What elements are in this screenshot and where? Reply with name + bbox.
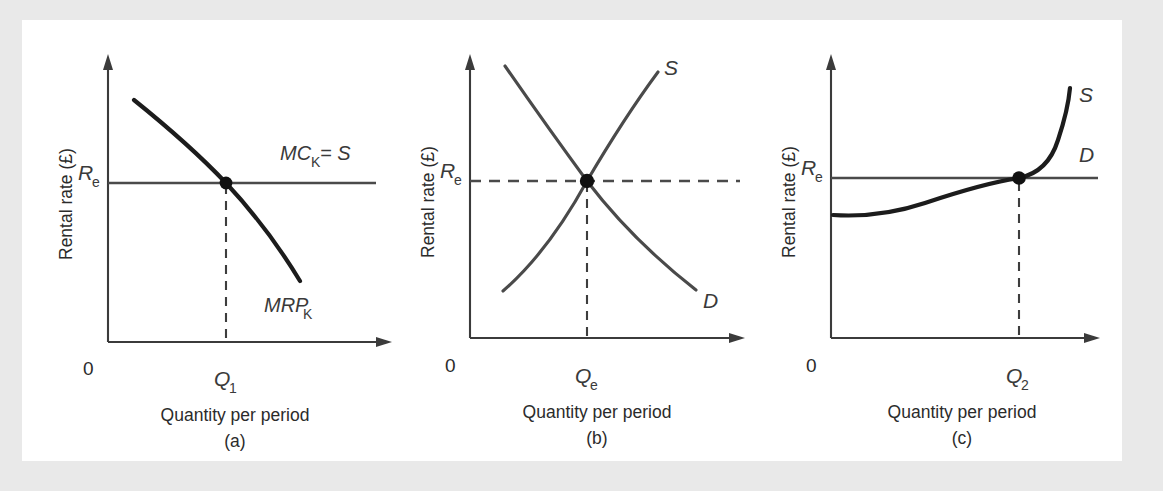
- panel-c-y-axis-label: Rental rate (£): [779, 146, 799, 258]
- panel-a-mrpk-label: MRP K: [264, 294, 313, 322]
- panel-b-y-axis-arrowhead: [465, 54, 475, 70]
- panel-a-y-axis-arrowhead: [103, 54, 113, 70]
- panel-b-demand-curve: [505, 66, 696, 290]
- panel-b-caption: (b): [586, 428, 607, 448]
- panel-a-price-symbol: R: [78, 161, 93, 184]
- panel-a-x-axis-label: Quantity per period: [161, 405, 310, 425]
- panel-a-mrpk-subscript: K: [303, 306, 313, 322]
- panel-a-x-axis-arrowhead: [376, 337, 392, 347]
- panel-c-price-symbol: R: [801, 156, 816, 179]
- panel-a-origin-label: 0: [83, 358, 94, 379]
- panel-b-equilibrium-point: [580, 174, 594, 188]
- panel-b-y-axis-label: Rental rate (£): [418, 146, 438, 258]
- panel-c: Rental rate (£) R e S D 0 Q 2 Quantity p…: [779, 54, 1100, 448]
- panel-a-equilibrium-point: [220, 177, 233, 190]
- figure-root: Rental rate (£) R e MC K = S MRP K 0 Q: [0, 0, 1163, 491]
- panel-a: Rental rate (£) R e MC K = S MRP K 0 Q: [56, 54, 392, 451]
- panel-a-mck-suffix: = S: [320, 142, 351, 164]
- panel-b-origin-label: 0: [445, 355, 456, 376]
- panel-c-origin-label: 0: [806, 355, 817, 376]
- panel-b: Rental rate (£) R e S D 0 Q e Quantity p…: [418, 54, 745, 448]
- panel-c-y-axis-arrowhead: [826, 54, 836, 70]
- panel-a-quantity-subscript: 1: [229, 380, 237, 396]
- panel-c-x-axis-label: Quantity per period: [888, 402, 1037, 422]
- panel-a-quantity-symbol: Q: [214, 367, 230, 390]
- panel-c-x-axis-arrowhead: [1084, 333, 1100, 343]
- panel-c-quantity-subscript: 2: [1021, 377, 1029, 393]
- panel-c-supply-label: S: [1079, 83, 1093, 106]
- panel-b-price-symbol: R: [440, 159, 455, 182]
- three-panel-capital-market-figure: Rental rate (£) R e MC K = S MRP K 0 Q: [0, 0, 1163, 491]
- panel-b-price-subscript: e: [454, 172, 462, 188]
- panel-c-demand-label: D: [1079, 143, 1094, 166]
- panel-b-quantity-label: Q e: [575, 364, 598, 393]
- panel-c-price-label: R e: [801, 156, 823, 185]
- panel-a-mck-supply-label: MC K = S: [280, 142, 351, 170]
- panel-b-quantity-subscript: e: [590, 377, 598, 393]
- panel-b-quantity-symbol: Q: [575, 364, 591, 387]
- panel-a-caption: (a): [224, 431, 245, 451]
- panel-c-caption: (c): [952, 428, 972, 448]
- panel-c-quantity-symbol: Q: [1006, 364, 1022, 387]
- panel-c-supply-curve: [833, 88, 1070, 216]
- panel-a-price-label: R e: [78, 161, 100, 190]
- panel-a-y-axis-label: Rental rate (£): [56, 148, 76, 260]
- panel-b-x-axis-label: Quantity per period: [523, 402, 672, 422]
- panel-c-price-subscript: e: [815, 169, 823, 185]
- panel-b-supply-label: S: [664, 56, 678, 79]
- panel-b-demand-label: D: [703, 289, 718, 312]
- panel-c-equilibrium-point: [1012, 171, 1026, 185]
- panel-a-mrpk-curve: [134, 100, 300, 281]
- panel-a-quantity-label: Q 1: [214, 367, 237, 396]
- panel-b-x-axis-arrowhead: [729, 333, 745, 343]
- panel-c-quantity-label: Q 2: [1006, 364, 1029, 393]
- panel-a-price-subscript: e: [92, 174, 100, 190]
- panel-a-mck-symbol: MC: [280, 142, 312, 164]
- panel-b-price-label: R e: [440, 159, 462, 188]
